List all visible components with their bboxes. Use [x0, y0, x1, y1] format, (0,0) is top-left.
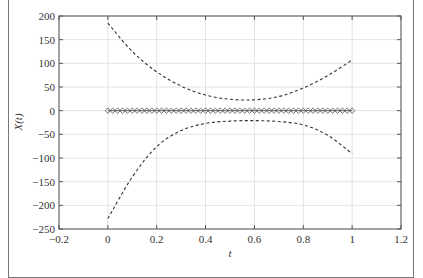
y-tick-label: −50 — [38, 128, 56, 140]
y-tick-label: 100 — [39, 57, 56, 69]
x-tick-label: 0 — [105, 233, 111, 245]
grid-lines — [59, 16, 401, 229]
x-tick-label: 0.4 — [199, 233, 213, 245]
x-axis-label: t — [228, 247, 232, 259]
data-series — [105, 23, 354, 218]
dashed-bound-curve — [108, 121, 352, 219]
y-tick-label: 50 — [44, 81, 56, 93]
y-axis-label: X(t) — [12, 113, 25, 131]
dashed-bound-curve — [108, 23, 352, 100]
y-tick-label: 150 — [39, 34, 56, 46]
plot-area-border — [59, 16, 401, 229]
y-tick-label: −250 — [32, 223, 55, 235]
x-tick-label: 0.2 — [150, 233, 164, 245]
y-tick-label: −200 — [32, 199, 55, 211]
x-tick-label: 1.2 — [394, 233, 408, 245]
x-tick-label: 0.6 — [248, 233, 262, 245]
y-tick-labels: 200150100500−50−100−150−200−250 — [32, 10, 55, 235]
axis-ticks — [59, 16, 401, 229]
x-tick-label: 0.8 — [296, 233, 310, 245]
y-tick-label: 200 — [39, 10, 56, 22]
x-tick-labels: −0.200.20.40.60.811.2 — [49, 233, 408, 245]
y-tick-label: 0 — [50, 105, 56, 117]
y-tick-label: −100 — [32, 152, 55, 164]
x-tick-label: 1 — [349, 233, 355, 245]
y-tick-label: −150 — [32, 176, 55, 188]
